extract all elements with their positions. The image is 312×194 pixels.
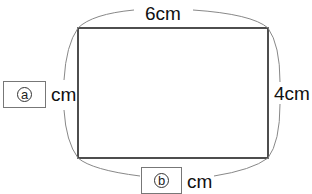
top-length-label: 6cm <box>145 4 181 23</box>
bottom-brace-right <box>214 158 268 176</box>
left-brace-bottom <box>64 110 78 158</box>
marker-a: a <box>17 87 32 102</box>
left-brace-top <box>64 28 78 80</box>
left-unit-label: cm <box>51 85 76 104</box>
top-brace-right <box>193 10 268 28</box>
blank-box-b[interactable]: b <box>141 167 182 194</box>
bottom-unit-label: cm <box>187 172 212 191</box>
rectangle <box>78 28 268 158</box>
bottom-brace-left <box>78 158 140 176</box>
marker-b: b <box>154 173 169 188</box>
blank-box-a[interactable]: a <box>3 81 46 108</box>
right-brace-top <box>268 28 280 82</box>
right-brace-bottom <box>268 104 280 158</box>
top-brace-left <box>78 10 134 28</box>
rectangle-diagram <box>0 0 312 194</box>
right-length-label: 4cm <box>274 84 310 103</box>
